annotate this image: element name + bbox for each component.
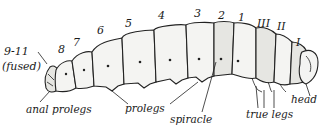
head: [299, 50, 318, 84]
label-segment-9-11: 9-11: [4, 45, 29, 58]
label-segment-III: III: [256, 17, 271, 30]
label-segment-5: 5: [125, 17, 132, 30]
segment-6: [92, 38, 124, 91]
spiracle-dot: [83, 69, 85, 71]
segment-3: [186, 22, 214, 82]
label-spiracle: spiracle: [170, 113, 212, 125]
label-segment-2: 2: [217, 9, 225, 22]
segment-II: [274, 34, 292, 85]
segment-5: [122, 30, 156, 88]
label-segment-4: 4: [157, 9, 165, 22]
spiracle-dot: [107, 65, 110, 68]
part-labels: anal prolegs prolegs spiracle true legs …: [26, 93, 317, 125]
label-true-legs: true legs: [246, 108, 294, 120]
label-fused: (fused): [2, 60, 41, 73]
diagram-canvas: 9-11 (fused) 8 7 6 5 4 3 2 1 III II I an…: [0, 0, 328, 136]
spiracle-dot: [198, 58, 201, 61]
label-anal-prolegs: anal prolegs: [26, 103, 92, 115]
spiracle-dot: [139, 61, 142, 64]
spiracle-dot: [220, 58, 223, 61]
segment-III: [256, 27, 276, 82]
label-prolegs: prolegs: [125, 102, 165, 114]
spiracle-dot: [237, 60, 240, 63]
label-segment-7: 7: [73, 36, 80, 49]
segment-1: [232, 23, 256, 79]
label-segment-3: 3: [194, 7, 201, 20]
caterpillar-diagram: 9-11 (fused) 8 7 6 5 4 3 2 1 III II I an…: [0, 0, 328, 136]
label-segment-1: 1: [238, 11, 245, 24]
segment-4: [154, 25, 188, 84]
label-segment-8: 8: [58, 43, 65, 56]
segment-2: [214, 22, 234, 77]
label-segment-I: I: [295, 36, 301, 49]
label-segment-II: II: [276, 20, 286, 33]
label-segment-6: 6: [97, 24, 104, 37]
label-head: head: [291, 93, 317, 105]
spiracle-dot: [169, 59, 172, 62]
spiracle-dot: [65, 73, 67, 75]
